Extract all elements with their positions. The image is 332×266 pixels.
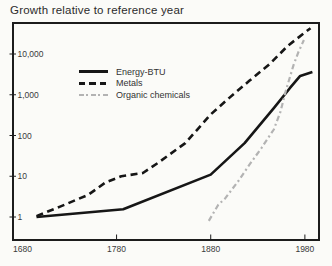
y-tick-label: 100 (18, 131, 32, 141)
legend-item-metals: Metals (79, 78, 190, 90)
legend-item-organic-chemicals: Organic chemicals (79, 89, 190, 101)
growth-chart: 1101001,00010,0001680178018801980 (0, 0, 332, 266)
x-tick-label: 1680 (13, 244, 32, 254)
legend-item-energy-btu: Energy-BTU (79, 66, 190, 78)
chart-legend: Energy-BTU Metals Organic chemicals (79, 66, 190, 101)
energy-btu-line-swatch (79, 70, 108, 73)
y-tick-label: 1 (18, 212, 23, 222)
metals-line-swatch (79, 82, 108, 85)
organic-chemicals-line-swatch (79, 94, 108, 97)
y-tick-label: 1,000 (18, 90, 40, 100)
x-tick-label: 1780 (107, 244, 126, 254)
x-tick-label: 1880 (201, 244, 220, 254)
y-tick-label: 10,000 (18, 49, 44, 59)
x-tick-label: 1980 (295, 244, 314, 254)
legend-label-organic-chemicals: Organic chemicals (116, 90, 190, 100)
legend-label-energy-btu: Energy-BTU (116, 67, 166, 77)
legend-label-metals: Metals (116, 78, 143, 88)
chart-page: Growth relative to reference year 110100… (0, 0, 332, 266)
y-tick-label: 10 (18, 171, 28, 181)
